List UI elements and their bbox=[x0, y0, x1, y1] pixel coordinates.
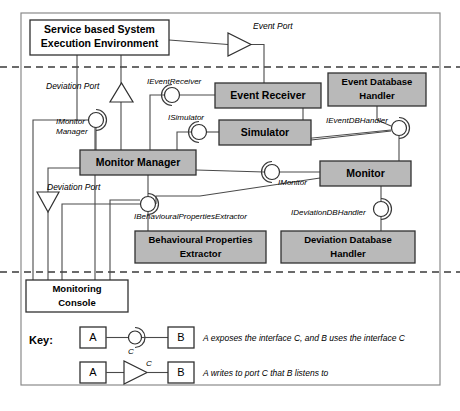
port-label-deviation-port-upper: Deviation Port bbox=[46, 81, 100, 91]
key-legend: Key: A C B A exposes the interface C, an… bbox=[29, 327, 406, 384]
interface-label-ideviationdbhandler: IDeviationDBHandler bbox=[291, 208, 366, 217]
interface-socket-isimulator bbox=[189, 122, 207, 143]
node-service-based-system-execution-environment[interactable]: Service based System Execution Environme… bbox=[30, 20, 169, 55]
node-event-receiver[interactable]: Event Receiver bbox=[215, 83, 321, 108]
key-row1-label-a: A bbox=[89, 331, 97, 343]
connector-simulator-to-ieventdbhandler bbox=[311, 131, 391, 140]
interface-label-ieventreceiver: IEventReceiver bbox=[147, 77, 202, 86]
node-label-simulator: Simulator bbox=[241, 126, 289, 138]
node-label-monitor: Monitor bbox=[346, 167, 385, 179]
key-interface-row: A C B A exposes the interface C, and B u… bbox=[80, 327, 406, 356]
node-behavioural-properties-extractor[interactable]: Behavioural Properties Extractor bbox=[135, 231, 266, 263]
event-port-triangle bbox=[228, 33, 251, 56]
key-title: Key: bbox=[29, 334, 53, 346]
interface-socket-ideviationdbhandler bbox=[374, 199, 392, 220]
node-deviation-database-handler[interactable]: Deviation Database Handler bbox=[281, 231, 415, 263]
key-row2-label-a: A bbox=[89, 366, 97, 378]
deviation-port-upper-triangle bbox=[110, 83, 133, 102]
node-label-bpe-line1: Behavioural Properties bbox=[148, 234, 252, 245]
key-row2-connector-label: C bbox=[146, 359, 152, 368]
key-port-row: A C B A writes to port C that B listens … bbox=[80, 359, 329, 384]
key-row2-port-triangle bbox=[124, 361, 147, 384]
architecture-diagram: Service based System Execution Environme… bbox=[0, 0, 460, 411]
interface-socket-imonitor bbox=[262, 162, 280, 183]
port-label-event-port: Event Port bbox=[253, 21, 293, 31]
key-row2-label-b: B bbox=[177, 366, 184, 378]
connector-serviceenv-to-eventport bbox=[169, 40, 228, 45]
key-row1-label-b: B bbox=[177, 331, 184, 343]
node-label-dev-db-handler-line1: Deviation Database bbox=[304, 234, 392, 245]
interface-label-ibehaviouralpropertiesextractor: IBehaviouralPropertiesExtractor bbox=[134, 212, 247, 221]
node-monitoring-console[interactable]: Monitoring Console bbox=[26, 280, 128, 312]
connector-eventport-to-eventreceiver bbox=[250, 45, 264, 84]
interface-label-imonitormanager-line2: Manager bbox=[56, 127, 88, 136]
port-label-deviation-port-lower: Deviation Port bbox=[47, 182, 101, 192]
key-row2-description: A writes to port C that B listens to bbox=[202, 368, 329, 378]
connector-ibpe-left-rail bbox=[62, 204, 140, 280]
interface-socket-imonitormanager bbox=[89, 110, 107, 131]
node-label-event-db-handler-line2: Handler bbox=[359, 90, 395, 101]
node-label-service-env-line2: Execution Environment bbox=[41, 37, 159, 49]
key-row1-description: A exposes the interface C, and B uses th… bbox=[202, 333, 406, 343]
node-label-event-db-handler-line1: Event Database bbox=[342, 76, 413, 87]
node-label-monitoring-console-line1: Monitoring bbox=[52, 283, 101, 294]
node-monitor[interactable]: Monitor bbox=[320, 161, 411, 186]
node-monitor-manager[interactable]: Monitor Manager bbox=[80, 150, 196, 175]
node-label-monitor-manager: Monitor Manager bbox=[96, 156, 181, 168]
interface-socket-ieventdbhandler bbox=[392, 118, 410, 139]
interface-label-imonitor: IMonitor bbox=[278, 178, 307, 187]
interface-label-imonitormanager-line1: IMonitor bbox=[56, 117, 85, 126]
interface-label-ieventdbhandler: IEventDBHandler bbox=[326, 116, 388, 125]
node-label-dev-db-handler-line2: Handler bbox=[330, 248, 366, 259]
interface-label-isimulator: ISimulator bbox=[168, 113, 204, 122]
key-row1-socket-circle bbox=[129, 331, 142, 344]
interface-socket-ieventreceiver bbox=[162, 85, 180, 106]
diagram-canvas: Service based System Execution Environme… bbox=[0, 0, 460, 411]
deviation-port-lower-triangle bbox=[37, 192, 59, 212]
node-label-bpe-line2: Extractor bbox=[180, 248, 222, 259]
connector-monitormanager-uses-imonitor bbox=[196, 170, 264, 172]
node-label-event-receiver: Event Receiver bbox=[230, 89, 305, 101]
node-label-service-env-line1: Service based System bbox=[44, 23, 155, 35]
node-label-monitoring-console-line2: Console bbox=[58, 297, 95, 308]
key-row1-connector-label: C bbox=[128, 347, 134, 356]
node-simulator[interactable]: Simulator bbox=[219, 120, 311, 145]
connector-monitormanager-uses-ieventreceiver bbox=[150, 95, 164, 150]
node-event-database-handler[interactable]: Event Database Handler bbox=[328, 73, 426, 106]
